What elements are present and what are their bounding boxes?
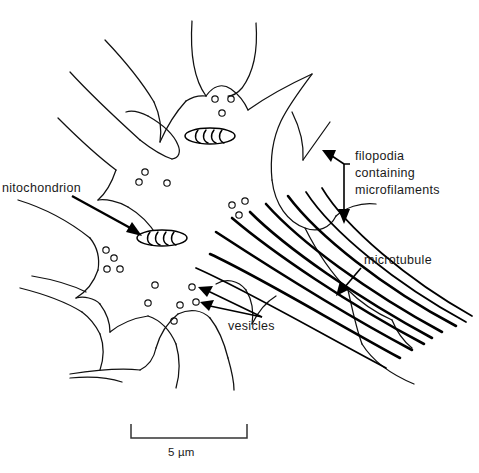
vesicle <box>117 266 123 272</box>
annotation-filopodia: filopodia containing microfilaments <box>322 149 440 224</box>
filopodia-label-line1: filopodia <box>355 149 404 163</box>
vesicle <box>242 198 248 204</box>
cell-outline-right-finger <box>292 112 303 160</box>
mitochondrion-leader <box>72 196 134 230</box>
microtubule-5 <box>266 204 442 332</box>
vesicle <box>219 110 225 116</box>
filopodia-label-line2: containing <box>355 166 415 180</box>
vesicles-leader-1 <box>208 291 262 317</box>
cell-outline-left-lower-notch <box>76 297 100 304</box>
cell-outline-left-edge-2 <box>90 238 99 270</box>
microtubule-4 <box>250 212 432 338</box>
vesicles-leader-2 <box>210 306 262 317</box>
cell-outline-top-center-right <box>228 23 256 96</box>
vesicle <box>152 282 158 288</box>
cell-outline-top-center <box>191 21 206 96</box>
cell-outline-bottom-finger-3 <box>176 344 179 388</box>
annotation-mitochondrion: nitochondrion <box>2 181 142 236</box>
mitochondrion-label: nitochondrion <box>2 181 81 195</box>
cell-outline-bottom-left-fil-2 <box>82 312 100 334</box>
cell-outline-bottom-center-4 <box>178 311 210 318</box>
vesicle <box>142 169 148 175</box>
vesicles-label: vesicles <box>228 319 275 333</box>
vesicle <box>177 302 183 308</box>
cell-outline-bottom-finger-1 <box>110 316 148 332</box>
cell-outline-group <box>18 21 414 390</box>
scale-bar-group: 5 µm <box>131 424 247 458</box>
cell-outline-left-thin-2 <box>70 377 122 382</box>
cell-outline-left-finger-bot <box>140 140 172 159</box>
mitochondrion-lower <box>137 230 187 246</box>
filopodia-label-line3: microfilaments <box>355 183 440 197</box>
cell-outline-bottom-left-fil-3 <box>100 334 103 370</box>
vesicle <box>164 180 170 186</box>
vesicle <box>229 202 235 208</box>
cell-outline-bottom-center-1 <box>70 369 140 374</box>
cell-outline-bottom-center-2 <box>140 348 156 370</box>
vesicle <box>145 300 151 306</box>
vesicle <box>103 247 109 253</box>
vesicle <box>228 96 234 102</box>
vesicle <box>193 299 199 305</box>
cell-outline-bottom-left-fil-1 <box>20 288 82 312</box>
scale-bar-label: 5 µm <box>168 446 195 458</box>
vesicles-arrowhead-2 <box>200 300 214 311</box>
mitochondrion-lower-body <box>137 230 187 246</box>
mitochondrion-upper <box>185 128 235 144</box>
cell-outline-upper-right-2 <box>271 74 312 180</box>
cell-outline-left-finger-tip <box>148 116 179 159</box>
filopodia-leader <box>344 164 350 214</box>
annotation-vesicles: vesicles <box>198 286 275 333</box>
cell-outline-left-lower-notch-2 <box>100 304 110 332</box>
vesicle <box>136 179 142 185</box>
cell-outline-upper-left <box>105 40 154 102</box>
cell-outline-bottom-center-5 <box>210 318 228 358</box>
cell-outline-upper-right <box>248 74 312 110</box>
scale-bar-line <box>131 424 247 438</box>
microtubule-leader <box>344 268 361 288</box>
diagram-canvas: nitochondrion filopodia containing micro… <box>0 0 479 473</box>
microtubule-label: microtubule <box>364 253 432 267</box>
cell-outline-bottom-center-3 <box>156 314 178 348</box>
vesicle <box>189 284 195 290</box>
vesicle <box>236 212 242 218</box>
cell-outline-left-finger-tip2 <box>126 111 148 116</box>
cell-outline-left-edge <box>18 200 90 238</box>
microtubule-bundle <box>196 188 472 368</box>
vesicle <box>212 96 218 102</box>
mitochondrion-arrowhead <box>126 222 142 236</box>
microtubule-9 <box>196 268 386 368</box>
cell-outline-left-mid <box>58 118 116 170</box>
cell-outline-upper-left-4 <box>186 96 206 101</box>
mitochondrion-upper-body <box>185 128 235 144</box>
filopodia-arrowhead-up <box>322 150 336 162</box>
cell-outline-left-finger-top <box>70 72 140 140</box>
vesicle <box>104 266 110 272</box>
vesicle <box>171 318 177 324</box>
vesicle <box>111 255 117 261</box>
cell-outline-left-mid-3 <box>98 200 128 207</box>
cell-outline-left-thin-1 <box>32 276 86 292</box>
cell-outline-right-lobe <box>272 180 336 230</box>
filopodia-leader-upper <box>332 156 344 164</box>
cell-diagram-figure: nitochondrion filopodia containing micro… <box>0 0 479 473</box>
cell-outline-bottom-center-6 <box>228 358 234 390</box>
cell-outline-left-edge-3 <box>76 270 98 298</box>
cell-outline-left-mid-2 <box>98 170 116 200</box>
